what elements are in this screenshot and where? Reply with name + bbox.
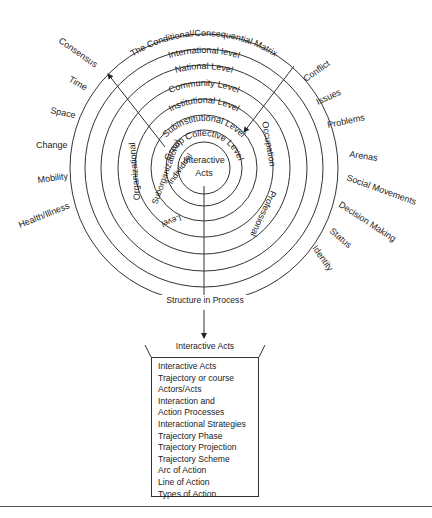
svg-text:National Level: National Level [174,61,234,75]
box-item: Actors/Acts [158,384,258,396]
svg-text:Status: Status [328,226,354,250]
svg-text:International level: International level [167,45,241,60]
box-item: Line of Action [158,477,258,489]
svg-text:Space: Space [50,105,77,120]
svg-text:Level: Level [160,213,183,229]
svg-text:Arenas: Arenas [349,149,379,163]
svg-text:Occupation: Occupation [260,121,278,168]
bottom-rule [0,506,432,507]
box-item: Arc of Action [158,465,258,477]
svg-text:Problems: Problems [326,112,366,130]
box-item: Interactional Strategies [158,419,258,431]
svg-text:Consensus: Consensus [57,35,100,69]
svg-text:Acts: Acts [195,168,213,178]
svg-text:Identity: Identity [310,243,335,273]
box-item: Interactive Acts [158,361,258,373]
svg-text:Change: Change [36,140,68,150]
svg-text:Organizational: Organizational [127,142,142,201]
svg-text:Conflict: Conflict [301,58,332,84]
box-item: Trajectory or course [158,373,258,385]
svg-text:Mobility: Mobility [37,171,69,185]
box-item: Types of Action [158,489,258,501]
box-heading: Interactive Acts [145,341,265,351]
interactive-acts-box: Interactive Acts Trajectory or course Ac… [151,357,259,497]
svg-text:Time: Time [67,74,89,92]
box-item: Trajectory Phase [158,431,258,443]
box-item: Interaction and [158,396,258,408]
structure-in-process-label: Structure in Process [150,295,260,305]
svg-text:Institutional Level: Institutional Level [167,95,241,114]
box-item: Action Processes [158,407,258,419]
box-item: Trajectory Projection [158,442,258,454]
svg-text:Health/Illness: Health/Illness [17,200,71,230]
svg-text:Community Level: Community Level [167,78,241,95]
box-item: Trajectory Scheme [158,454,258,466]
svg-text:Social Movements: Social Movements [345,172,418,207]
svg-text:Issues: Issues [315,87,343,107]
